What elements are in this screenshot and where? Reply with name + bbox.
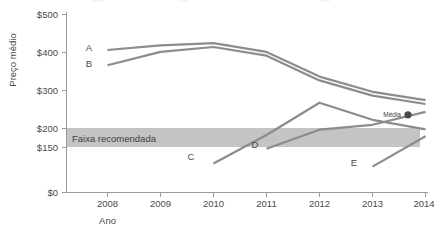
media-annotation: Média [383, 111, 411, 118]
y-tick-label-500: $500 [37, 9, 58, 20]
y-tick-label-300: $300 [37, 85, 58, 96]
series-line-b [108, 47, 426, 104]
price-range-line-chart: Faixa recomendada $500 $400 $300 $200 $1… [0, 0, 440, 237]
recommended-range-label: Faixa recomendada [72, 133, 157, 144]
x-tick-label-2013: 2013 [362, 198, 383, 209]
y-tick-label-150: $150 [37, 142, 58, 153]
y-tick-label-200: $200 [37, 123, 58, 134]
x-tick-label-2011: 2011 [256, 198, 276, 209]
x-axis-title: Ano [99, 215, 116, 226]
x-tick-label-2010: 2010 [203, 198, 224, 209]
series-label-e: E [351, 157, 357, 168]
x-axis [67, 193, 429, 198]
series-lines [108, 43, 426, 166]
x-tick-label-2012: 2012 [309, 198, 330, 209]
series-label-a: A [86, 42, 93, 53]
y-tick-label-400: $400 [37, 47, 58, 58]
series-label-c: C [188, 151, 195, 162]
clipped-title-row [0, 0, 440, 6]
x-tick-label-2009: 2009 [150, 198, 171, 209]
y-tick-label-0: $0 [47, 187, 58, 198]
media-marker-dot [404, 111, 411, 118]
x-tick-labels: 2008 2009 2010 2011 2012 2013 2014 [97, 198, 435, 209]
y-axis [62, 12, 67, 193]
media-marker-label: Média [383, 111, 401, 118]
series-label-b: B [86, 58, 92, 69]
x-tick-label-2008: 2008 [97, 198, 118, 209]
y-tick-labels: $500 $400 $300 $200 $150 $0 [37, 9, 58, 198]
series-line-a [108, 43, 426, 100]
x-tick-label-2014: 2014 [413, 198, 434, 209]
chart-canvas: Faixa recomendada $500 $400 $300 $200 $1… [0, 0, 440, 237]
series-label-d: D [252, 139, 259, 150]
y-axis-title: Preço médio [7, 33, 18, 86]
